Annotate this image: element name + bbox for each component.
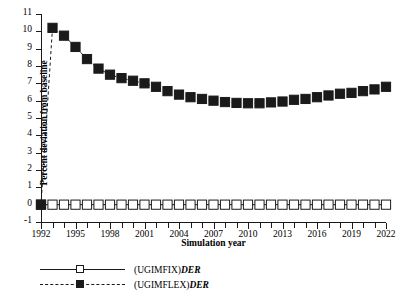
open-square-marker	[94, 200, 103, 209]
x-tick	[375, 223, 376, 228]
filled-square-marker	[243, 99, 252, 108]
x-tick	[363, 223, 364, 228]
x-tick	[271, 223, 272, 228]
legend-item-ugimfix: (UGIMFIX)DER	[40, 262, 340, 277]
open-square-marker	[48, 200, 57, 209]
filled-square-marker	[278, 97, 287, 106]
x-tick	[225, 223, 226, 228]
filled-square-marker	[209, 96, 218, 105]
x-tick	[168, 223, 169, 228]
x-tick	[99, 223, 100, 228]
y-tick-label: 11	[23, 7, 32, 17]
filled-square-marker	[174, 90, 183, 99]
open-square-icon	[76, 265, 84, 273]
filled-square-marker	[186, 93, 195, 102]
filled-square-marker	[48, 23, 57, 32]
open-square-marker	[71, 200, 80, 209]
open-square-marker	[186, 200, 195, 209]
open-square-marker	[381, 200, 390, 209]
filled-square-marker	[163, 87, 172, 96]
filled-square-marker	[266, 98, 275, 107]
x-tick	[237, 223, 238, 228]
x-tick	[294, 223, 295, 228]
filled-square-marker	[117, 74, 126, 83]
x-tick	[306, 223, 307, 228]
y-tick-label: 7	[27, 76, 32, 86]
open-square-marker	[117, 200, 126, 209]
open-square-marker	[370, 200, 379, 209]
open-square-marker	[197, 200, 206, 209]
filled-square-marker	[347, 88, 356, 97]
x-tick	[340, 223, 341, 228]
open-square-marker	[220, 200, 229, 209]
filled-square-marker	[197, 94, 206, 103]
series-ugimfix	[36, 200, 390, 209]
y-tick-label: 3	[27, 146, 32, 156]
open-square-marker	[312, 200, 321, 209]
filled-square-marker	[82, 54, 91, 63]
open-square-marker	[289, 200, 298, 209]
filled-square-marker	[94, 64, 103, 73]
x-tick	[260, 223, 261, 228]
filled-square-icon	[76, 280, 84, 288]
x-tick	[87, 223, 88, 228]
y-tick-label: 0	[27, 198, 32, 208]
x-tick	[64, 223, 65, 228]
open-square-marker	[174, 200, 183, 209]
legend-key-ugimflex	[40, 278, 125, 291]
x-tick	[191, 223, 192, 228]
legend-label-ugimflex: (UGIMFLEX)DER	[134, 280, 209, 290]
legend-item-ugimflex: (UGIMFLEX)DER	[40, 277, 340, 292]
filled-square-marker	[59, 31, 68, 40]
y-tick-label: 4	[27, 128, 32, 138]
legend-key-ugimfix	[40, 263, 125, 276]
filled-square-marker	[71, 42, 80, 51]
open-square-marker	[151, 200, 160, 209]
open-square-marker	[347, 200, 356, 209]
series-line	[41, 28, 386, 205]
filled-square-marker	[220, 97, 229, 106]
filled-square-marker	[289, 95, 298, 104]
filled-square-marker	[105, 70, 114, 79]
chart-legend: (UGIMFIX)DER (UGIMFLEX)DER	[40, 262, 340, 292]
filled-square-marker	[140, 79, 149, 88]
open-square-marker	[266, 200, 275, 209]
open-square-marker	[278, 200, 287, 209]
open-square-marker	[301, 200, 310, 209]
y-tick-label: -1	[24, 215, 32, 225]
y-tick-label: 5	[27, 111, 32, 121]
x-tick	[329, 223, 330, 228]
open-square-marker	[209, 200, 218, 209]
filled-square-marker	[128, 76, 137, 85]
open-square-marker	[232, 200, 241, 209]
open-square-marker	[163, 200, 172, 209]
filled-square-marker	[381, 82, 390, 91]
open-square-marker	[243, 200, 252, 209]
filled-square-marker	[312, 93, 321, 102]
filled-square-marker	[36, 200, 45, 209]
y-tick-label: 8	[27, 59, 32, 69]
filled-square-marker	[151, 82, 160, 91]
open-square-marker	[82, 200, 91, 209]
filled-square-marker	[324, 91, 333, 100]
data-series-layer	[41, 14, 386, 223]
y-tick-label: 9	[27, 42, 32, 52]
open-square-marker	[59, 200, 68, 209]
filled-square-marker	[301, 94, 310, 103]
x-tick	[122, 223, 123, 228]
filled-square-marker	[370, 85, 379, 94]
series-ugimflex	[36, 23, 390, 209]
filled-square-marker	[255, 99, 264, 108]
open-square-marker	[140, 200, 149, 209]
open-square-marker	[255, 200, 264, 209]
x-axis-title: Simulation year	[41, 238, 386, 248]
filled-square-marker	[335, 89, 344, 98]
x-tick	[133, 223, 134, 228]
y-tick-label: 6	[27, 94, 32, 104]
y-tick-label: 10	[23, 24, 33, 34]
open-square-marker	[105, 200, 114, 209]
plot-area: -101234567891011 19921995199820012004200…	[41, 14, 386, 223]
x-tick	[156, 223, 157, 228]
legend-label-ugimfix: (UGIMFIX)DER	[134, 265, 201, 275]
